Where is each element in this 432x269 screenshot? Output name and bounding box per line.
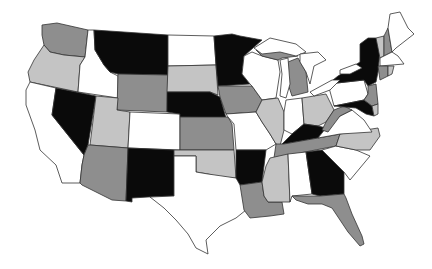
- state-ms: [262, 154, 290, 202]
- state-nm: [126, 148, 174, 202]
- states-layer: [26, 12, 414, 254]
- state-co: [128, 112, 180, 150]
- state-ar: [236, 150, 266, 185]
- state-ri: [388, 66, 394, 76]
- state-me: [388, 12, 414, 52]
- lake-michigan: [280, 58, 290, 98]
- state-az: [80, 145, 128, 201]
- state-fl: [292, 194, 364, 246]
- state-ct: [378, 66, 388, 80]
- state-sd: [167, 65, 218, 95]
- state-ny: [328, 38, 380, 86]
- state-ks: [180, 117, 234, 150]
- state-nd: [168, 35, 216, 66]
- state-wy: [117, 74, 168, 112]
- us-map: [0, 0, 432, 269]
